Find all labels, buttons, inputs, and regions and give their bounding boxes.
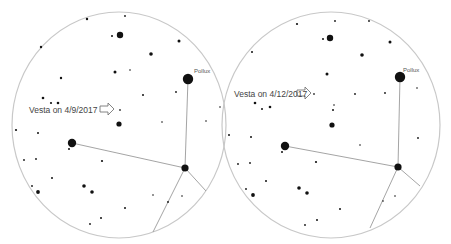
star xyxy=(360,53,364,57)
star xyxy=(333,104,335,106)
star xyxy=(50,102,52,104)
star xyxy=(339,208,341,210)
constellation-line xyxy=(398,167,420,186)
star xyxy=(183,74,193,84)
pollux-label-right: Pollux xyxy=(403,67,419,73)
star xyxy=(245,188,247,190)
star xyxy=(237,163,239,165)
star-chart-left xyxy=(12,12,226,238)
star xyxy=(334,20,336,22)
star xyxy=(250,136,252,138)
star xyxy=(297,186,301,190)
star xyxy=(42,97,45,100)
star xyxy=(124,207,126,209)
star xyxy=(178,40,181,43)
star xyxy=(51,177,53,179)
star xyxy=(31,185,33,187)
constellation-line xyxy=(72,143,185,168)
star xyxy=(23,159,25,161)
star xyxy=(304,224,306,226)
vesta-label-right: Vesta on 4/12/2017 xyxy=(234,90,307,99)
constellation-line xyxy=(370,167,398,228)
star xyxy=(395,72,405,82)
star xyxy=(68,148,70,150)
star xyxy=(368,20,370,22)
star xyxy=(152,194,154,196)
star xyxy=(265,180,267,182)
star xyxy=(394,195,396,197)
star xyxy=(316,219,318,221)
star xyxy=(205,120,207,122)
star xyxy=(251,193,255,197)
constellation-line xyxy=(285,146,398,167)
star xyxy=(228,134,230,136)
arrow-right-icon xyxy=(100,103,114,115)
vesta-label-left: Vesta on 4/9/2017 xyxy=(29,106,98,115)
star xyxy=(142,94,144,96)
star xyxy=(161,121,163,123)
star xyxy=(354,93,356,95)
star xyxy=(329,122,334,127)
star xyxy=(129,69,131,71)
star xyxy=(40,46,42,48)
constellation-line xyxy=(185,168,206,191)
star xyxy=(326,73,329,76)
star-chart-right xyxy=(222,12,440,238)
star xyxy=(281,142,289,150)
star xyxy=(149,52,153,56)
star xyxy=(90,190,94,194)
star xyxy=(68,139,76,147)
star xyxy=(60,77,62,79)
star xyxy=(249,162,251,164)
star xyxy=(389,41,392,44)
pollux-label-left: Pollux xyxy=(194,68,210,74)
star xyxy=(359,144,361,146)
star xyxy=(296,23,298,25)
star xyxy=(117,32,123,38)
star xyxy=(305,191,309,195)
star xyxy=(327,35,333,41)
star xyxy=(261,108,263,110)
vesta-point xyxy=(119,109,121,111)
star xyxy=(167,201,169,203)
star xyxy=(384,92,386,94)
constellation-line xyxy=(153,168,185,232)
star xyxy=(37,132,39,134)
star xyxy=(89,223,91,225)
star xyxy=(417,137,419,139)
star xyxy=(175,91,177,93)
star xyxy=(281,151,283,153)
star-chart-canvas xyxy=(0,0,451,244)
star xyxy=(114,71,117,74)
star xyxy=(394,163,401,170)
star xyxy=(181,164,188,171)
star xyxy=(332,109,334,111)
star xyxy=(416,87,418,89)
star xyxy=(101,160,103,162)
star xyxy=(251,51,253,53)
constellation-line xyxy=(185,79,188,168)
star xyxy=(36,190,40,194)
star xyxy=(254,102,257,105)
star xyxy=(86,18,88,20)
star xyxy=(57,102,60,105)
star xyxy=(181,195,183,197)
star-chart-comparison: Vesta on 4/9/2017 Pollux Vesta on 4/12/2… xyxy=(0,0,451,244)
vesta-point xyxy=(313,93,315,95)
constellation-line xyxy=(398,77,400,167)
star xyxy=(322,38,324,40)
star xyxy=(111,35,113,37)
star xyxy=(315,161,317,163)
star xyxy=(124,15,126,17)
star xyxy=(100,217,102,219)
star xyxy=(82,184,86,188)
star xyxy=(382,200,384,202)
star xyxy=(269,106,272,109)
star xyxy=(116,121,121,126)
star xyxy=(35,158,37,160)
star xyxy=(219,106,221,108)
star xyxy=(15,129,17,131)
